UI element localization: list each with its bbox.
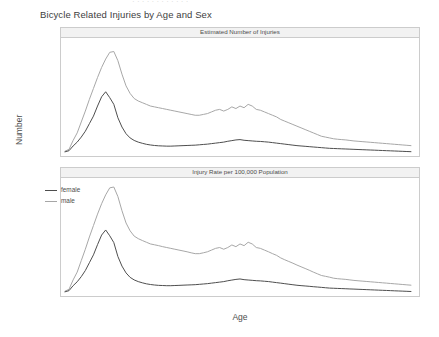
series-line-female-bottom [65, 230, 411, 292]
x-tick-mark [146, 296, 147, 297]
line-chart-bottom [61, 178, 419, 296]
plot-area-top: 0200004000060000 [60, 38, 420, 157]
y-tick-mark [60, 85, 61, 86]
panel-strip-label-top: Estimated Number of Injuries [200, 29, 280, 35]
y-tick-mark [60, 119, 61, 120]
series-line-female-top [65, 92, 411, 152]
series-line-male-bottom [65, 187, 411, 291]
line-chart-top [61, 38, 419, 156]
x-axis-title: Age [60, 312, 420, 322]
series-line-male-top [65, 52, 411, 152]
y-tick-mark [60, 52, 61, 53]
chart-root: · · · · · · · · · · · · Bicycle Related … [0, 0, 439, 337]
panel-injury-rate: Injury Rate per 100,000 Population 01000… [60, 167, 420, 297]
legend-swatch-female [45, 190, 57, 191]
legend-label-female: female [61, 187, 80, 193]
x-tick-mark [309, 296, 310, 297]
chart-title: Bicycle Related Injuries by Age and Sex [40, 9, 212, 20]
legend-item-male[interactable]: male [45, 197, 80, 206]
panel-strip-bottom: Injury Rate per 100,000 Population [60, 167, 420, 178]
panel-strip-label-bottom: Injury Rate per 100,000 Population [192, 169, 288, 175]
panel-strip-top: Estimated Number of Injuries [60, 27, 420, 38]
clipped-header-text: · · · · · · · · · · · · [132, 0, 188, 2]
legend-label-male: male [61, 198, 75, 204]
plot-area-bottom: 0100020003000 020406080 [60, 178, 420, 297]
legend-swatch-male [45, 201, 57, 202]
x-tick-mark [227, 296, 228, 297]
y-tick-mark [60, 258, 61, 259]
x-tick-mark [64, 296, 65, 297]
panel-estimated-number: Estimated Number of Injuries 02000040000… [60, 27, 420, 157]
legend-item-female[interactable]: female [45, 186, 80, 195]
x-tick-mark [390, 296, 391, 297]
y-tick-mark [60, 224, 61, 225]
y-tick-mark [60, 293, 61, 294]
y-tick-mark [60, 153, 61, 154]
y-axis-title: Number [14, 115, 24, 145]
legend: female male [45, 186, 80, 208]
